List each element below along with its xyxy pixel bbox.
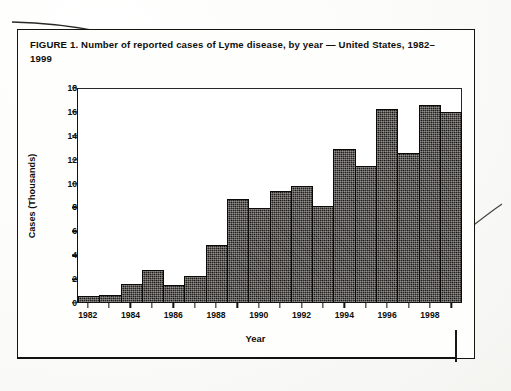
bar-1990 (248, 208, 270, 302)
x-tick-mark-1982 (87, 303, 88, 308)
scanned-page: FIGURE 1. Number of reported cases of Ly… (0, 0, 511, 391)
bar-1991 (270, 191, 292, 302)
x-tick-mark-1995 (365, 303, 366, 308)
plot-area (77, 88, 462, 303)
figure-title: FIGURE 1. Number of reported cases of Ly… (30, 38, 450, 65)
bar-1998 (419, 105, 441, 302)
bar-1985 (142, 270, 164, 302)
x-tick-label-1988: 1988 (206, 310, 225, 320)
x-tick-mark-1992 (301, 303, 302, 308)
x-tick-mark-1988 (215, 303, 216, 308)
bar-1982 (78, 296, 100, 302)
x-axis-label: Year (0, 333, 511, 344)
x-tick-mark-1990 (258, 303, 259, 308)
bar-1983 (99, 295, 121, 302)
x-tick-mark-1998 (429, 303, 430, 308)
x-axis: 198219841986198819901992199419961998 (77, 303, 462, 327)
bar-1997 (397, 153, 419, 302)
x-tick-label-1984: 1984 (121, 310, 140, 320)
bar-1986 (163, 285, 185, 302)
x-tick-mark-1999 (451, 303, 452, 308)
bar-1989 (227, 199, 249, 302)
x-tick-label-1990: 1990 (249, 310, 268, 320)
y-axis: Cases (Thousands) 024681012141618 (48, 88, 77, 303)
x-tick-mark-1983 (108, 303, 109, 308)
bar-1987 (184, 276, 206, 302)
bar-series (78, 89, 461, 302)
x-tick-mark-1997 (408, 303, 409, 308)
x-tick-label-1994: 1994 (335, 310, 354, 320)
x-tick-label-1992: 1992 (292, 310, 311, 320)
x-tick-label-1986: 1986 (164, 310, 183, 320)
bar-1996 (376, 109, 398, 303)
bar-1994 (333, 149, 355, 302)
x-tick-mark-1984 (130, 303, 131, 308)
x-tick-label-1996: 1996 (378, 310, 397, 320)
bar-1999 (440, 112, 462, 302)
x-tick-mark-1986 (173, 303, 174, 308)
bar-1984 (121, 284, 143, 302)
x-tick-mark-1994 (344, 303, 345, 308)
x-tick-mark-1996 (386, 303, 387, 308)
bar-1993 (312, 206, 334, 302)
bar-1992 (291, 186, 313, 302)
figure-border-bottom (17, 357, 457, 359)
x-tick-mark-1987 (194, 303, 195, 308)
x-tick-label-1998: 1998 (420, 310, 439, 320)
y-axis-label: Cases (Thousands) (27, 153, 37, 238)
bar-1995 (355, 166, 377, 302)
x-tick-label-1982: 1982 (78, 310, 97, 320)
x-tick-mark-1989 (237, 303, 238, 308)
x-tick-mark-1991 (280, 303, 281, 308)
x-tick-mark-1985 (151, 303, 152, 308)
x-tick-mark-1993 (322, 303, 323, 308)
bar-1988 (206, 245, 228, 302)
